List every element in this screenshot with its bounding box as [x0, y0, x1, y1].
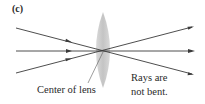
- arrowhead-icon: [65, 39, 72, 43]
- arrowhead-icon: [188, 72, 195, 75]
- rays-not-bent-label-line2: not bent.: [131, 87, 168, 98]
- diagram-canvas: [0, 0, 205, 104]
- arrowhead-icon: [66, 49, 72, 53]
- arrowhead-icon: [65, 58, 72, 61]
- rays-not-bent-label-line1: Rays are: [131, 73, 167, 84]
- arrowhead-icon: [188, 27, 195, 30]
- center-of-lens-label: Center of lens: [37, 85, 96, 96]
- arrowhead-icon: [188, 49, 195, 53]
- lens-center-ray-diagram: (c) Center of lens Rays are not bent.: [0, 0, 205, 104]
- panel-label: (c): [12, 4, 23, 14]
